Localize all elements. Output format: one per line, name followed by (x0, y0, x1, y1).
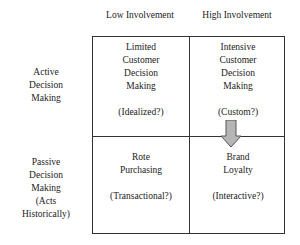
cell-line: Loyalty (190, 164, 286, 177)
row-label-line: Making (0, 182, 92, 195)
cell-limited-customer-decision-making: Limited Customer Decision Making (Ideali… (93, 41, 189, 119)
row-label-line: Decision (0, 79, 92, 92)
row-label-line: Historically) (0, 208, 92, 221)
row-label-line: Decision (0, 169, 92, 182)
cell-tag: (Transactional?) (93, 190, 189, 203)
row-label-line: Active (0, 66, 92, 79)
matrix-grid: Limited Customer Decision Making (Ideali… (92, 36, 285, 234)
row-label-active: Active Decision Making (0, 66, 92, 105)
cell-tag: (Custom?) (190, 106, 286, 119)
cell-line: Rote (93, 151, 189, 164)
cell-brand-loyalty: Brand Loyalty (Interactive?) (190, 151, 286, 203)
row-label-line: Making (0, 92, 92, 105)
column-header-low-involvement: Low Involvement (92, 10, 188, 20)
cell-intensive-customer-decision-making: Intensive Customer Decision Making (Cust… (190, 41, 286, 119)
cell-line: Brand (190, 151, 286, 164)
row-label-passive: Passive Decision Making (Acts Historical… (0, 156, 92, 221)
cell-line: Purchasing (93, 164, 189, 177)
cell-line: Limited (93, 41, 189, 54)
cell-line: Intensive (190, 41, 286, 54)
cell-line: Making (93, 80, 189, 93)
row-label-line: (Acts (0, 195, 92, 208)
grid-divider-horizontal (93, 136, 284, 137)
cell-tag: (Interactive?) (190, 190, 286, 203)
column-header-high-involvement: High Involvement (188, 10, 286, 20)
row-label-line: Passive (0, 156, 92, 169)
cell-line: Decision (190, 67, 286, 80)
cell-line: Making (190, 80, 286, 93)
cell-line: Customer (190, 54, 286, 67)
down-arrow-icon (221, 120, 241, 148)
cell-line: Customer (93, 54, 189, 67)
cell-line: Decision (93, 67, 189, 80)
cell-tag: (Idealized?) (93, 106, 189, 119)
cell-rote-purchasing: Rote Purchasing (Transactional?) (93, 151, 189, 203)
